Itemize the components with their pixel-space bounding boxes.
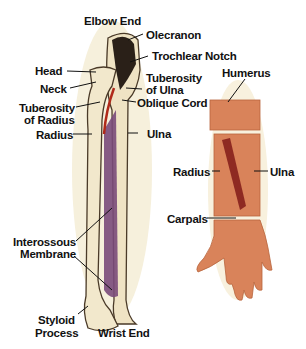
- label-interossous-2: Membrane: [20, 248, 76, 260]
- interosseous-membrane: [104, 110, 118, 297]
- label-ulna-right: Ulna: [270, 166, 294, 178]
- hand: [197, 220, 272, 300]
- label-trochlear-notch: Trochlear Notch: [152, 50, 237, 62]
- label-neck: Neck: [40, 83, 67, 95]
- label-tuberosity-ulna-1: Tuberosity: [146, 72, 202, 84]
- label-interossous-1: Interossous: [13, 236, 76, 248]
- label-elbow-end: Elbow End: [84, 15, 141, 27]
- label-tuberosity-radius-1: Tuberosity: [19, 102, 75, 114]
- label-head: Head: [35, 65, 62, 77]
- label-radius-left: Radius: [36, 129, 73, 141]
- label-wrist-end: Wrist End: [98, 327, 150, 339]
- label-tuberosity-radius-2: of Radius: [24, 114, 75, 126]
- label-oblique-cord: Oblique Cord: [137, 97, 207, 109]
- label-tuberosity-ulna-2: of Ulna: [146, 84, 184, 96]
- label-radius-right: Radius: [173, 166, 210, 178]
- humerus-block: [210, 100, 260, 130]
- label-carpals: Carpals: [167, 213, 208, 225]
- label-humerus: Humerus: [222, 67, 270, 79]
- label-styloid-2: Process: [35, 327, 78, 339]
- label-styloid-1: Styloid: [38, 314, 75, 326]
- label-olecranon: Olecranon: [146, 29, 201, 41]
- label-ulna-left: Ulna: [147, 128, 171, 140]
